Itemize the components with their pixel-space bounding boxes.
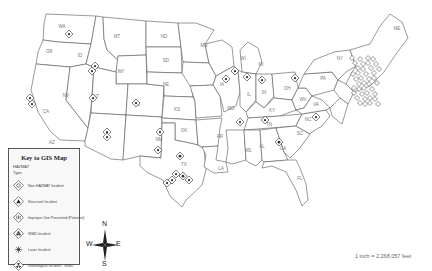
state-label-mi: MI <box>259 62 264 67</box>
state-label-nv: NV <box>63 93 69 98</box>
state-label-nd: ND <box>161 34 168 39</box>
state-label-ky: KY <box>269 108 275 113</box>
state-label-mn: MN <box>201 43 208 48</box>
incident-marker-cluster[interactable] <box>368 101 373 106</box>
incident-marker-cluster[interactable] <box>363 97 368 102</box>
state-label-ne: NE <box>163 82 169 87</box>
state-label-wa: WA <box>58 24 65 29</box>
incident-marker-cluster[interactable] <box>358 101 363 106</box>
hazmat-diamond-icon <box>13 180 24 191</box>
legend-item: Structural Incident <box>13 196 75 207</box>
incident-marker-cluster[interactable] <box>355 96 360 101</box>
compass-north-label: N <box>102 220 107 227</box>
legend-title: Key to GIS Map <box>13 154 75 161</box>
legend-item-label: WMD Incident <box>28 232 51 236</box>
nuclear-diamond-icon <box>13 260 24 271</box>
state-label-fl: FL <box>297 176 303 181</box>
state-label-mo: MO <box>227 106 235 111</box>
state-label-pa: PA <box>320 76 326 81</box>
state-label-tn: TN <box>266 122 272 127</box>
state-label-va: VA <box>313 102 319 107</box>
legend-item: Non-HAZMAT Incident <box>13 180 75 191</box>
state-label-ca: CA <box>43 109 49 114</box>
compass-south-label: S <box>102 260 107 267</box>
map-scale-text: 1 inch = 2,268,057 feet <box>355 253 411 259</box>
incident-marker-cluster[interactable] <box>365 91 370 96</box>
legend-item: WMD Incident <box>13 228 75 239</box>
incident-marker-cluster[interactable] <box>376 102 381 107</box>
incident-marker-cluster[interactable] <box>375 81 380 86</box>
state-label-ms: MS <box>245 148 252 153</box>
legend-field: Type <box>13 170 75 175</box>
compass-rose-icon <box>92 229 118 261</box>
state-label-ia: IA <box>220 82 224 87</box>
state-label-nm: NM <box>156 137 163 142</box>
incident-marker-cluster[interactable] <box>370 87 375 92</box>
legend-item-label: Laser Incident <box>28 248 51 252</box>
state-label-wv: WV <box>299 97 306 102</box>
state-label-la: LA <box>218 166 224 171</box>
legend-item-label: Radiological Incident - WMD <box>28 264 73 268</box>
legend-item: Improper Use Prevented (Potential) <box>13 212 75 223</box>
state-label-oh: OH <box>284 86 291 91</box>
incident-marker-cluster[interactable] <box>360 92 365 97</box>
state-label-id: ID <box>78 53 83 58</box>
state-label-ny: NY <box>337 56 343 61</box>
state-label-sc: SC <box>297 131 304 136</box>
state-label-tx: TX <box>181 162 187 167</box>
state-label-mt: MT <box>114 34 121 39</box>
biohazard-diamond-icon <box>13 228 24 239</box>
state-label-wi: WI <box>240 56 246 61</box>
north-arrow: N W E S <box>86 220 122 270</box>
state-label-wy: WY <box>117 69 124 74</box>
legend-item-label: Non-HAZMAT Incident <box>28 184 64 188</box>
incident-marker-cluster[interactable] <box>373 92 378 97</box>
hand-diamond-icon <box>13 212 24 223</box>
legend-item-label: Improper Use Prevented (Potential) <box>28 216 85 220</box>
state-boundaries <box>31 14 408 207</box>
state-label-me: ME <box>394 26 401 31</box>
state-label-il: IL <box>247 92 251 97</box>
legend-layer: HAZMAT <box>13 164 75 169</box>
explosion-diamond-icon <box>13 196 24 207</box>
state-label-ar: AR <box>217 134 224 139</box>
state-label-in: IN <box>262 90 267 95</box>
state-label-sd: SD <box>163 58 170 63</box>
map-legend: Key to GIS Map HAZMAT Type Non-HAZMAT In… <box>8 148 80 265</box>
legend-item-label: Structural Incident <box>28 200 57 204</box>
state-label-ks: KS <box>174 107 180 112</box>
legend-item: Laser Incident <box>13 244 75 255</box>
legend-item: Radiological Incident - WMD <box>13 260 75 271</box>
incident-marker-cluster[interactable] <box>373 97 378 102</box>
state-label-az: AZ <box>49 140 55 145</box>
state-label-ga: GA <box>280 146 287 151</box>
state-label-nc: NC <box>305 117 312 122</box>
incident-marker-cluster[interactable] <box>363 102 368 107</box>
state-label-or: OR <box>46 49 54 54</box>
state-label-al: AL <box>259 144 265 149</box>
radiation-diamond-icon <box>13 244 24 255</box>
incident-marker-biohazard[interactable] <box>236 118 244 126</box>
incident-marker-cluster[interactable] <box>368 96 373 101</box>
state-label-ok: OK <box>181 128 188 133</box>
